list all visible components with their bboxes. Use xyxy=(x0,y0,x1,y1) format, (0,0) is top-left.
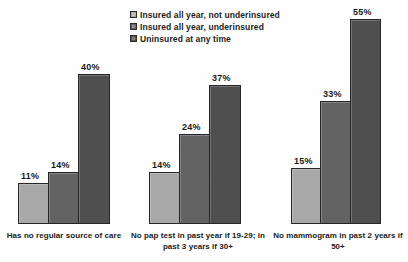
bar-g1-insured-underinsured xyxy=(48,172,79,224)
bar-g2-insured-not-underinsured xyxy=(149,172,180,224)
bar-group-no-regular-source-of-care: 11% 14% 40% xyxy=(18,0,110,224)
bar-group-no-mammogram: 15% 33% 55% xyxy=(291,0,381,224)
bar-highlight xyxy=(79,75,109,223)
bar-highlight xyxy=(180,135,209,223)
bar-highlight xyxy=(210,86,240,223)
category-label-no-mammogram: No mammogram in past 2 years if 50+ xyxy=(268,231,408,252)
bar-g3-insured-not-underinsured xyxy=(291,168,321,224)
category-label-no-pap-test: No pap test in past year if 19-29; in pa… xyxy=(128,231,268,252)
bar-group-no-pap-test: 14% 24% 37% xyxy=(149,0,241,224)
bar-value-label: 14% xyxy=(51,160,70,170)
bar-g2-insured-underinsured xyxy=(179,134,210,224)
bar-g1-uninsured-any-time xyxy=(78,74,110,224)
bar-highlight xyxy=(321,102,350,223)
category-label-no-regular-source-of-care: Has no regular source of care xyxy=(4,231,124,242)
bar-highlight xyxy=(292,169,320,223)
bar-highlight xyxy=(19,184,48,223)
bar-value-label: 40% xyxy=(81,62,100,72)
bar-value-label: 37% xyxy=(212,73,231,83)
bar-value-label: 11% xyxy=(21,171,39,181)
category-label-line: Has no regular source of care xyxy=(4,231,124,242)
category-label-line: No pap test in past year if 19-29; in xyxy=(128,231,268,242)
bar-value-label: 55% xyxy=(353,7,372,17)
bar-g3-insured-underinsured xyxy=(320,101,351,224)
bar-g2-uninsured-any-time xyxy=(209,85,241,224)
bar-value-label: 14% xyxy=(152,160,171,170)
category-label-line: past 3 years if 30+ xyxy=(128,242,268,253)
bar-value-label: 33% xyxy=(323,89,342,99)
category-label-line: No mammogram in past 2 years if 50+ xyxy=(268,231,408,252)
bar-value-label: 24% xyxy=(182,122,201,132)
bar-chart: Insured all year, not underinsured Insur… xyxy=(0,0,408,262)
bar-highlight xyxy=(150,173,179,223)
bar-g1-insured-not-underinsured xyxy=(18,183,49,224)
bar-value-label: 15% xyxy=(294,156,313,166)
plot-area: 11% 14% 40% 14% 24% 37% xyxy=(0,0,408,224)
bar-highlight xyxy=(351,20,380,223)
bar-g3-uninsured-any-time xyxy=(350,19,381,224)
bar-highlight xyxy=(49,173,78,223)
